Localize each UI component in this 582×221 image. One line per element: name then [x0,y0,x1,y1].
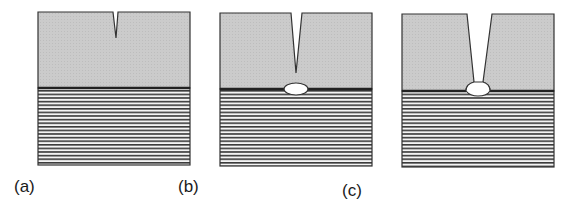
panel-a [38,12,190,165]
panel-a-label: (a) [14,178,35,195]
cavity-b [284,83,308,95]
top-layer-a [38,12,190,88]
top-layer-c-left [402,14,474,91]
cavity-c [466,82,490,96]
substrate-b [220,89,372,166]
substrate-a [38,88,190,165]
panel-b-label: (b) [178,178,199,195]
panel-b [220,13,372,166]
top-layer-b [220,13,372,89]
diagram-canvas [0,0,582,221]
substrate-c [402,91,554,167]
panel-c-label: (c) [342,182,362,199]
top-layer-c-right [483,14,554,91]
panel-c [402,14,554,167]
